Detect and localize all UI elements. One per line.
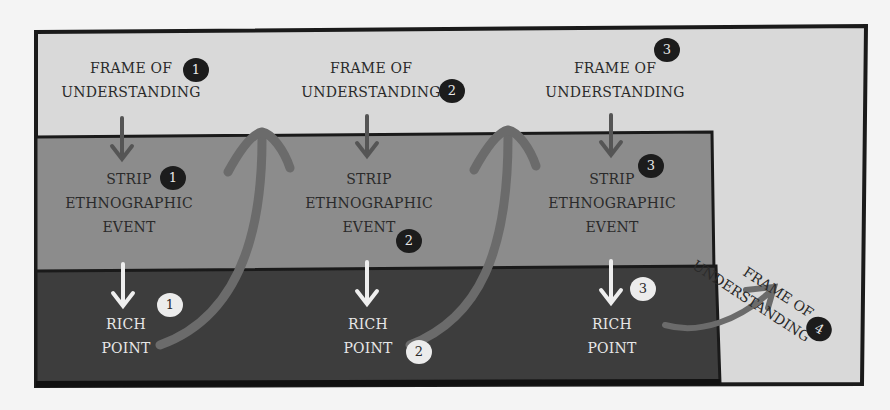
strip-label-line: ETHNOGRAPHIC xyxy=(64,191,194,215)
rich-point-badge-2: 2 xyxy=(406,340,432,364)
strip-badge-3: 3 xyxy=(638,154,664,178)
rich-point-label-line: POINT xyxy=(572,336,652,360)
frame-label-line: UNDERSTANDING xyxy=(296,80,446,104)
ethnography-frames-diagram: FRAME OF UNDERSTANDING 1 FRAME OF UNDERS… xyxy=(0,0,890,410)
strip-label-line: EVENT xyxy=(547,215,677,239)
rich-point-label-line: RICH xyxy=(328,312,408,336)
strip-label-3: STRIP ETHNOGRAPHIC EVENT xyxy=(547,167,677,239)
strip-label-line: ETHNOGRAPHIC xyxy=(547,191,677,215)
rich-point-badge-3: 3 xyxy=(630,277,656,301)
rich-point-label-line: POINT xyxy=(86,336,166,360)
frame-label-2: FRAME OF UNDERSTANDING xyxy=(296,56,446,104)
frame-label-line: UNDERSTANDING xyxy=(56,80,206,104)
frame-badge-1: 1 xyxy=(183,58,209,82)
strip-label-line: STRIP xyxy=(304,167,434,191)
strip-badge-2: 2 xyxy=(396,229,422,253)
rich-point-label-3: RICH POINT xyxy=(572,312,652,360)
frame-label-1: FRAME OF UNDERSTANDING xyxy=(56,56,206,104)
frame-label-line: UNDERSTANDING xyxy=(540,80,690,104)
rich-point-badge-1: 1 xyxy=(157,293,183,317)
bottom-edge xyxy=(36,382,720,384)
strip-label-line: ETHNOGRAPHIC xyxy=(304,191,434,215)
frame-label-3: FRAME OF UNDERSTANDING xyxy=(540,56,690,104)
rich-point-label-line: POINT xyxy=(328,336,408,360)
rich-point-label-line: RICH xyxy=(86,312,166,336)
strip-badge-1: 1 xyxy=(160,166,186,190)
strip-label-line: EVENT xyxy=(64,215,194,239)
frame-badge-2: 2 xyxy=(439,79,465,103)
frame-label-line: FRAME OF xyxy=(296,56,446,80)
rich-point-label-2: RICH POINT xyxy=(328,312,408,360)
frame-badge-3: 3 xyxy=(654,38,680,62)
strip-label-2: STRIP ETHNOGRAPHIC EVENT xyxy=(304,167,434,239)
rich-point-label-1: RICH POINT xyxy=(86,312,166,360)
rich-point-label-line: RICH xyxy=(572,312,652,336)
